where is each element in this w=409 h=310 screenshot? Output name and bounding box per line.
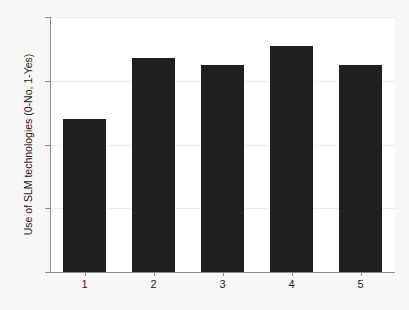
- bar-slot: [132, 17, 175, 272]
- x-axis-tick-mark: [361, 272, 362, 276]
- bar-chart-figure: 0.2.4.6.8 12345 Use of SLM technologies …: [0, 0, 409, 310]
- bar: [63, 119, 106, 272]
- bar: [339, 65, 382, 272]
- y-axis-tick-mark: [45, 145, 50, 146]
- bar-slot: [201, 17, 244, 272]
- bar-slot: [63, 17, 106, 272]
- x-axis-tick-mark: [292, 272, 293, 276]
- y-axis-tick-mark: [45, 272, 50, 273]
- x-axis-tick-mark: [85, 272, 86, 276]
- bar-series: [50, 17, 395, 272]
- x-axis-tick-label: 5: [341, 279, 381, 290]
- x-axis-tick-label: 2: [134, 279, 174, 290]
- bar: [270, 46, 313, 272]
- y-axis-tick-mark: [45, 17, 50, 18]
- y-axis-title: Use of SLM technologies (0-No, 1-Yes): [20, 17, 36, 272]
- bar: [132, 58, 175, 272]
- y-axis-tick-mark: [45, 208, 50, 209]
- x-axis-tick-mark: [154, 272, 155, 276]
- bar-slot: [270, 17, 313, 272]
- y-axis-tick-mark: [45, 81, 50, 82]
- bar: [201, 65, 244, 272]
- x-axis-tick-mark: [223, 272, 224, 276]
- x-axis-tick-label: 3: [203, 279, 243, 290]
- x-axis-tick-label: 1: [65, 279, 105, 290]
- bar-slot: [339, 17, 382, 272]
- x-axis-tick-label: 4: [272, 279, 312, 290]
